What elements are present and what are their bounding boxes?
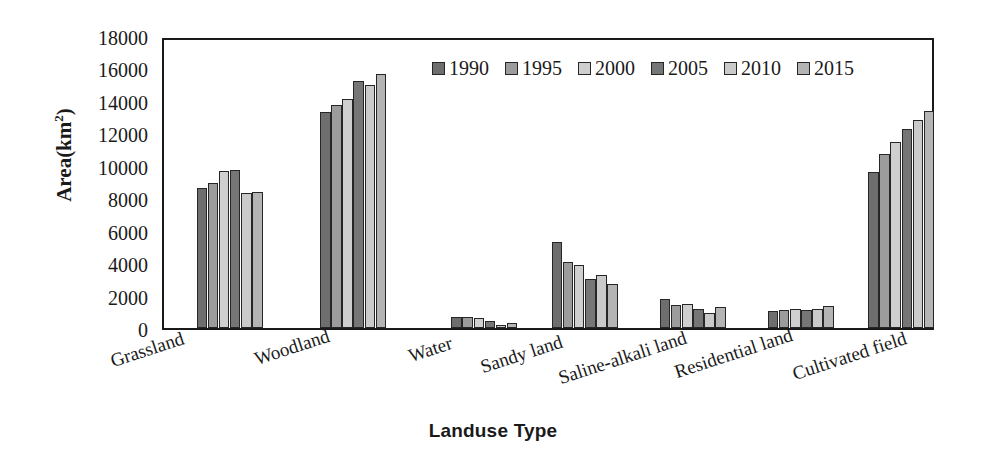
- bar-sandy-land-1995: [563, 262, 574, 328]
- bar-woodland-1995: [331, 105, 342, 328]
- bar-water-1995: [462, 317, 473, 328]
- bar-water-2010: [496, 325, 507, 328]
- bar-woodland-2005: [353, 81, 364, 328]
- x-axis-label-saline-alkali-land: Saline-alkali land: [556, 328, 689, 387]
- bar-residential-land-2015: [823, 306, 834, 328]
- y-axis-tick-labels: 1800016000140001200010000800060004000200…: [52, 38, 156, 330]
- bar-saline-alkali-land-1995: [671, 305, 682, 328]
- bar-group: [552, 40, 618, 328]
- legend-label: 2010: [741, 58, 781, 78]
- legend-entry-2010[interactable]: 2010: [724, 58, 781, 78]
- legend-label: 1995: [522, 58, 562, 78]
- bar-cultivated-field-2000: [890, 142, 901, 328]
- legend-swatch-icon: [651, 62, 664, 75]
- chart-legend: 199019952000200520102015: [432, 58, 854, 78]
- x-axis-title: Landuse Type: [0, 420, 986, 442]
- plot-area: [162, 38, 934, 330]
- bar-cultivated-field-2010: [913, 120, 924, 328]
- bar-cultivated-field-1990: [868, 172, 879, 328]
- bar-group: [868, 40, 934, 328]
- bar-grassland-1995: [208, 183, 219, 328]
- x-axis-label-sandy-land: Sandy land: [478, 332, 565, 376]
- chart-figure: Area(km2) 180001600014000120001000080006…: [0, 0, 986, 454]
- bar-cultivated-field-2005: [902, 129, 913, 328]
- y-axis-tick-label: 18000: [98, 28, 148, 48]
- y-axis-tick-label: 14000: [98, 93, 148, 113]
- legend-label: 1990: [449, 58, 489, 78]
- bar-water-1990: [451, 317, 462, 328]
- legend-entry-2015[interactable]: 2015: [797, 58, 854, 78]
- x-axis-label-woodland: Woodland: [252, 326, 332, 368]
- bar-grassland-2010: [241, 193, 252, 328]
- y-axis-tick-label: 2000: [108, 288, 148, 308]
- bar-residential-land-1990: [768, 311, 779, 328]
- bar-cultivated-field-2015: [924, 111, 935, 328]
- bar-grassland-2000: [219, 171, 230, 328]
- bar-woodland-2010: [365, 85, 376, 328]
- bar-group: [768, 40, 834, 328]
- bar-water-2000: [474, 318, 485, 328]
- bar-sandy-land-2010: [596, 275, 607, 328]
- bar-sandy-land-2015: [607, 284, 618, 328]
- bar-grassland-2015: [252, 192, 263, 328]
- bar-group: [660, 40, 726, 328]
- x-axis-label-water: Water: [406, 333, 455, 365]
- y-axis-tick-label: 0: [138, 320, 148, 340]
- y-axis-tick-label: 12000: [98, 125, 148, 145]
- bar-residential-land-2005: [801, 310, 812, 328]
- y-axis-tick-label: 8000: [108, 190, 148, 210]
- legend-label: 2015: [814, 58, 854, 78]
- bar-sandy-land-2000: [574, 265, 585, 328]
- bar-sandy-land-2005: [585, 279, 596, 328]
- bar-residential-land-2000: [790, 309, 801, 328]
- bar-woodland-1990: [320, 112, 331, 328]
- y-axis-tick-label: 4000: [108, 255, 148, 275]
- legend-swatch-icon: [797, 62, 810, 75]
- bar-grassland-1990: [197, 188, 208, 328]
- bar-saline-alkali-land-2005: [693, 309, 704, 328]
- bar-woodland-2015: [376, 74, 387, 328]
- legend-entry-2000[interactable]: 2000: [578, 58, 635, 78]
- x-axis-label-residential-land: Residential land: [672, 325, 795, 381]
- bar-cultivated-field-1995: [879, 154, 890, 328]
- legend-swatch-icon: [578, 62, 591, 75]
- bar-residential-land-2010: [812, 309, 823, 328]
- bar-saline-alkali-land-2010: [704, 313, 715, 328]
- bar-residential-land-1995: [779, 310, 790, 328]
- y-axis-tick-label: 16000: [98, 60, 148, 80]
- bar-saline-alkali-land-2000: [682, 304, 693, 328]
- legend-swatch-icon: [432, 62, 445, 75]
- x-axis-label-cultivated-field: Cultivated field: [790, 328, 909, 383]
- legend-label: 2005: [668, 58, 708, 78]
- legend-swatch-icon: [724, 62, 737, 75]
- bar-grassland-2005: [230, 170, 241, 328]
- legend-swatch-icon: [505, 62, 518, 75]
- bar-saline-alkali-land-2015: [715, 307, 726, 328]
- bar-water-2005: [485, 321, 496, 328]
- legend-entry-1990[interactable]: 1990: [432, 58, 489, 78]
- legend-entry-1995[interactable]: 1995: [505, 58, 562, 78]
- bar-group: [197, 40, 263, 328]
- bar-sandy-land-1990: [552, 242, 563, 328]
- legend-entry-2005[interactable]: 2005: [651, 58, 708, 78]
- plot-inner: [164, 40, 932, 328]
- bar-group: [451, 40, 517, 328]
- y-axis-tick-label: 6000: [108, 223, 148, 243]
- bar-woodland-2000: [342, 99, 353, 328]
- legend-label: 2000: [595, 58, 635, 78]
- y-axis-tick-label: 10000: [98, 158, 148, 178]
- bar-saline-alkali-land-1990: [660, 299, 671, 328]
- bar-water-2015: [507, 323, 518, 328]
- bar-group: [320, 40, 386, 328]
